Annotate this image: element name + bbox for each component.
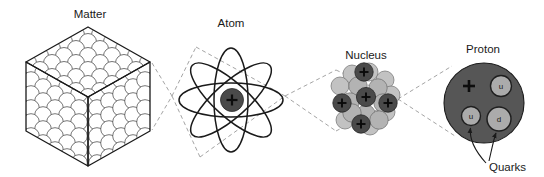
quark-u-upper-right-label: u xyxy=(499,82,503,91)
proton-body xyxy=(444,63,524,143)
matter-cube-icon xyxy=(20,20,157,172)
connector-matter-funnel-left xyxy=(152,63,172,130)
connector-nucleus-ray-bottom xyxy=(285,96,336,131)
quark-u-lower-left-label: u xyxy=(469,112,473,121)
proton-label: Proton xyxy=(466,43,500,55)
connector-nucleus-ray-top xyxy=(285,70,336,96)
connector-proton-ray-top xyxy=(398,66,452,99)
quark-u-upper-right: u xyxy=(491,76,512,97)
atom-icon xyxy=(179,48,283,152)
proton-icon: u u d xyxy=(444,63,524,143)
nucleus-icon xyxy=(331,63,400,135)
matter-structure-diagram: u u d Quarks Matter Atom Nucleus Proton xyxy=(0,0,544,177)
quarks-callout-label: Quarks xyxy=(489,161,526,173)
quark-u-lower-left: u xyxy=(462,107,481,126)
nucleus-label: Nucleus xyxy=(345,49,387,61)
connector-atom-ray-bottom xyxy=(172,96,200,157)
diagram-canvas: u u d Quarks Matter Atom Nucleus Proton xyxy=(0,0,544,177)
atom-label: Atom xyxy=(218,17,245,29)
quark-d-label: d xyxy=(497,115,501,124)
matter-label: Matter xyxy=(74,8,107,20)
quark-d: d xyxy=(487,107,511,131)
